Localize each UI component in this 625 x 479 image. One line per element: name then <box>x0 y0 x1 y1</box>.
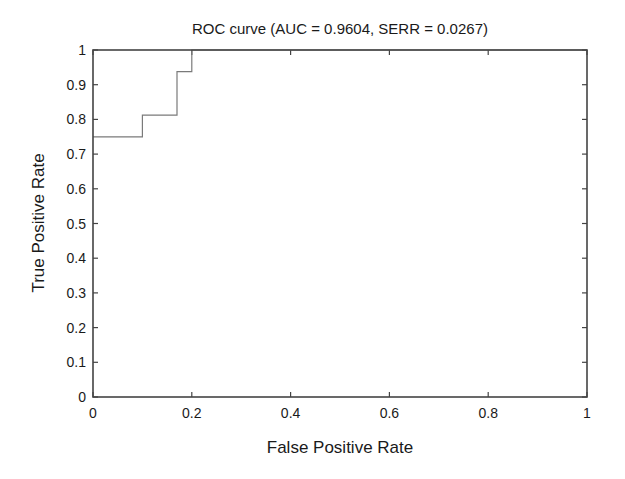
roc-chart: ROC curve (AUC = 0.9604, SERR = 0.0267) … <box>0 0 625 479</box>
chart-title: ROC curve (AUC = 0.9604, SERR = 0.0267) <box>192 20 488 37</box>
y-tick-label: 1 <box>78 42 86 58</box>
x-tick-label: 1 <box>583 405 591 421</box>
x-tick-label: 0.2 <box>182 405 202 421</box>
y-axis-label: True Positive Rate <box>29 153 48 292</box>
x-tick-label: 0.8 <box>478 405 498 421</box>
y-tick-label: 0.8 <box>67 111 87 127</box>
y-tick-label: 0.5 <box>67 216 87 232</box>
y-tick-label: 0.4 <box>67 250 87 266</box>
y-tick-label: 0.1 <box>67 354 87 370</box>
y-tick-label: 0 <box>78 389 86 405</box>
y-tick-label: 0.2 <box>67 320 87 336</box>
y-tick-label: 0.9 <box>67 77 87 93</box>
y-tick-label: 0.3 <box>67 285 87 301</box>
axes-frame <box>93 50 587 397</box>
y-axis-ticks: 00.10.20.30.40.50.60.70.80.91 <box>67 42 587 405</box>
x-tick-label: 0.6 <box>380 405 400 421</box>
x-axis-ticks: 00.20.40.60.81 <box>89 50 591 421</box>
x-axis-label: False Positive Rate <box>267 438 413 457</box>
roc-curve-line <box>93 50 587 137</box>
y-tick-label: 0.7 <box>67 146 87 162</box>
x-tick-label: 0.4 <box>281 405 301 421</box>
y-tick-label: 0.6 <box>67 181 87 197</box>
x-tick-label: 0 <box>89 405 97 421</box>
